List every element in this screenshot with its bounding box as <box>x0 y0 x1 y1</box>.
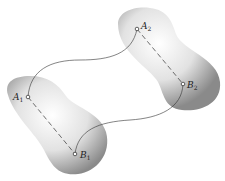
point-a1 <box>26 95 30 99</box>
rigid-body-1 <box>7 76 107 174</box>
point-a2 <box>135 27 139 31</box>
diagram-canvas: A1 B1 A2 B2 <box>0 0 225 181</box>
rigid-body-2 <box>118 8 220 111</box>
point-b2 <box>181 82 185 86</box>
point-b1 <box>73 152 77 156</box>
